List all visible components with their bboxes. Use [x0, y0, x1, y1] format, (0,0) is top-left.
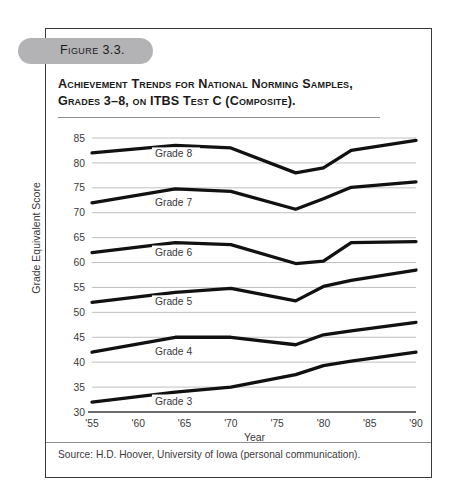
source-divider — [46, 442, 431, 443]
y-axis-title: Grade Equivalent Score — [30, 168, 42, 308]
figure-root: Figure 3.3. Achievement Trends for Natio… — [0, 0, 451, 499]
source-note: Source: H.D. Hoover, University of Iowa … — [58, 449, 360, 460]
figure-number-label: Figure 3.3. — [60, 43, 125, 57]
figure-title: Achievement Trends for National Norming … — [58, 76, 380, 110]
title-divider — [58, 117, 380, 118]
